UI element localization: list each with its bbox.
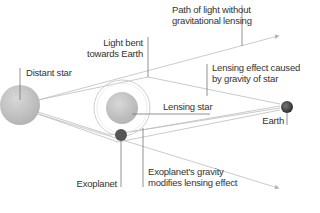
label-path-line-2: gravitational lensing (172, 15, 252, 26)
label-distant-star: Distant star (26, 67, 72, 78)
label-lensing-effect-line-1: Lensing effect caused (212, 62, 300, 73)
lensing-star-icon (106, 92, 138, 124)
label-earth: Earth (255, 115, 284, 126)
leader-lines (20, 5, 287, 187)
label-exoplanet-gravity-line-1: Exoplanet's gravity (148, 166, 237, 177)
label-lensing-effect: Lensing effect caused by gravity of star (212, 62, 300, 84)
label-lensing-star: Lensing star (163, 101, 212, 112)
label-light-bent-line-1: Light bent (86, 37, 143, 48)
exoplanet-icon (115, 129, 127, 141)
label-path-line-1: Path of light without (172, 4, 252, 15)
label-light-bent: Light bent towards Earth (86, 37, 143, 59)
label-light-bent-line-2: towards Earth (86, 48, 143, 59)
label-lensing-effect-line-2: by gravity of star (212, 73, 300, 84)
label-exoplanet-gravity-line-2: modifies lensing effect (148, 177, 237, 188)
earth-icon (281, 101, 293, 113)
label-exoplanet: Exoplanet (64, 178, 117, 189)
label-path-without-lensing: Path of light without gravitational lens… (172, 4, 252, 26)
bent-light-lower-2 (38, 110, 280, 142)
label-exoplanet-gravity: Exoplanet's gravity modifies lensing eff… (148, 166, 237, 188)
